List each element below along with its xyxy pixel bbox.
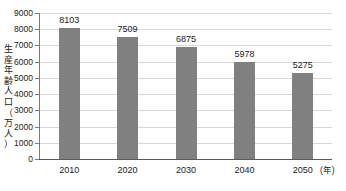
y-tick-mark <box>35 62 39 63</box>
bar-chart: 生 産 年 齢 人 口 （ 万 人 ） 90008000700060005000… <box>0 0 346 191</box>
y-tick-label: 9000 <box>3 9 33 18</box>
x-tick-label: 2050 <box>280 166 326 175</box>
y-tick-label: 7000 <box>3 41 33 50</box>
y-tick-mark <box>35 29 39 30</box>
y-tick-mark <box>35 78 39 79</box>
bar-value-label: 6875 <box>163 35 209 44</box>
y-tick-mark <box>35 45 39 46</box>
bar-value-label: 8103 <box>46 16 92 25</box>
bar <box>176 47 197 159</box>
x-tick-label: 2010 <box>46 166 92 175</box>
x-tick-label: 2020 <box>105 166 151 175</box>
y-tick-label: 6000 <box>3 58 33 67</box>
y-tick-label: 3000 <box>3 106 33 115</box>
x-axis-line <box>39 159 332 160</box>
y-tick-mark <box>35 143 39 144</box>
y-tick-label: 8000 <box>3 25 33 34</box>
x-tick-label: 2030 <box>163 166 209 175</box>
y-tick-mark <box>35 110 39 111</box>
bar-value-label: 7509 <box>105 25 151 34</box>
y-tick-label: 1000 <box>3 139 33 148</box>
bar-value-label: 5978 <box>221 50 267 59</box>
y-tick-mark <box>35 159 39 160</box>
bar <box>117 37 138 159</box>
x-tick-label: 2040 <box>221 166 267 175</box>
bar <box>59 28 80 159</box>
x-axis-unit-label: (年) <box>320 166 335 175</box>
bar <box>234 62 255 159</box>
y-tick-mark <box>35 127 39 128</box>
y-tick-mark <box>35 94 39 95</box>
y-tick-label: 4000 <box>3 90 33 99</box>
bar <box>292 73 313 159</box>
y-tick-label: 0 <box>3 155 33 164</box>
y-tick-label: 2000 <box>3 123 33 132</box>
y-tick-label: 5000 <box>3 74 33 83</box>
bar-value-label: 5275 <box>280 61 326 70</box>
y-tick-mark <box>35 13 39 14</box>
